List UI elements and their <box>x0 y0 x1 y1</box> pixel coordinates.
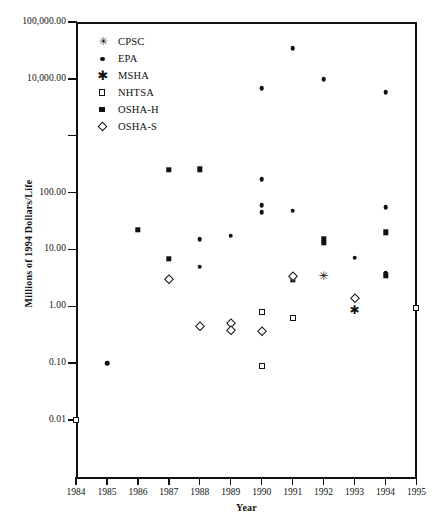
y-axis-tick-label: 1.00 <box>49 301 66 311</box>
data-point-cpsc: ✳ <box>318 271 329 282</box>
marker-glyph <box>97 122 107 132</box>
data-point-nhtsa <box>73 417 79 423</box>
marker-glyph <box>100 57 105 62</box>
legend-item-msha[interactable]: ✱MSHA <box>96 67 216 84</box>
data-point-nhtsa <box>259 363 265 369</box>
legend-item-osha-h[interactable]: OSHA-H <box>96 101 216 118</box>
y-axis-tick-label: 0.01 <box>49 415 66 425</box>
data-point-epa <box>383 90 388 95</box>
x-axis-tick <box>137 477 138 485</box>
open-diamond-icon <box>96 118 112 135</box>
y-axis-title: Millions of 1994 Dollars/Life <box>23 154 34 334</box>
legend-item-nhtsa[interactable]: NHTSA <box>96 84 216 101</box>
data-point-osha-s <box>195 321 204 330</box>
data-point-epa <box>198 237 203 242</box>
data-point-osha-h <box>166 167 171 172</box>
x-axis-tick <box>323 477 324 485</box>
y-axis-tick-label: 10,000.00 <box>27 74 66 84</box>
legend-item-label: MSHA <box>118 67 149 84</box>
x-axis-tick-label: 1995 <box>396 487 436 497</box>
data-point-nhtsa <box>259 309 265 315</box>
data-point-nhtsa <box>290 315 296 321</box>
x-axis-tick <box>230 477 231 485</box>
chart-canvas: 100,000.0010,000.00100.0010.001.000.100.… <box>0 0 441 518</box>
y-axis-tick-label: 100,000.00 <box>22 17 66 27</box>
x-axis-tick <box>416 477 417 485</box>
data-point-epa <box>259 210 264 215</box>
data-point-osha-h <box>383 273 388 278</box>
x-axis-title: Year <box>76 502 417 513</box>
data-point-osha-s <box>257 326 266 335</box>
marker-glyph <box>99 107 105 113</box>
data-point-osha-h <box>383 230 388 235</box>
legend-item-epa[interactable]: EPA <box>96 50 216 67</box>
data-point-osha-h <box>197 167 202 172</box>
plot-frame-top <box>76 22 417 24</box>
y-axis-tick-label: 100.00 <box>39 188 66 198</box>
data-point-epa <box>259 177 264 182</box>
x-axis-tick <box>292 477 293 485</box>
data-point-epa <box>383 205 388 210</box>
marker-glyph: ✱ <box>96 67 110 84</box>
data-point-epa <box>290 46 295 51</box>
data-point-epa <box>259 86 264 91</box>
data-point-osha-s <box>164 274 173 283</box>
x-axis-tick <box>261 477 262 485</box>
data-point-osha-s <box>350 293 359 302</box>
legend-item-cpsc[interactable]: ✳CPSC <box>96 33 216 50</box>
filled-circle-icon <box>96 50 112 67</box>
marker-glyph: ✳ <box>318 271 329 282</box>
x-axis-tick <box>106 477 107 485</box>
open-square-icon <box>96 84 112 101</box>
asterisk-eight-icon: ✱ <box>96 67 112 84</box>
data-point-epa <box>259 203 264 208</box>
chart-legend: ✳CPSCEPA✱MSHANHTSAOSHA-HOSHA-S <box>96 33 216 135</box>
legend-item-label: NHTSA <box>118 84 154 101</box>
data-point-epa <box>321 77 326 82</box>
data-point-epa <box>198 264 203 269</box>
data-point-epa <box>290 208 295 213</box>
legend-item-label: EPA <box>118 50 137 67</box>
y-axis-tick-label: 0.10 <box>49 358 66 368</box>
x-axis-tick <box>168 477 169 485</box>
data-point-msha: ✱ <box>349 305 360 316</box>
y-axis-tick-label: 10.00 <box>44 244 66 254</box>
x-axis-tick <box>75 477 76 485</box>
data-point-epa <box>105 361 110 366</box>
data-point-epa <box>228 233 233 238</box>
legend-item-osha-s[interactable]: OSHA-S <box>96 118 216 135</box>
filled-square-icon <box>96 101 112 118</box>
asterisk-six-icon: ✳ <box>96 33 112 50</box>
x-axis-line <box>76 477 417 479</box>
legend-item-label: OSHA-H <box>118 101 159 118</box>
legend-item-label: OSHA-S <box>118 118 157 135</box>
x-axis-tick <box>199 477 200 485</box>
marker-glyph <box>99 89 105 95</box>
marker-glyph: ✳ <box>96 33 110 50</box>
data-point-osha-s <box>226 326 235 335</box>
legend-item-label: CPSC <box>118 33 145 50</box>
y-axis-line <box>76 22 78 479</box>
x-axis-tick <box>385 477 386 485</box>
data-point-osha-h <box>166 256 171 261</box>
data-point-osha-h <box>321 240 326 245</box>
data-point-epa <box>352 255 357 260</box>
marker-glyph: ✱ <box>349 305 360 316</box>
data-point-nhtsa <box>413 305 419 311</box>
x-axis-tick <box>354 477 355 485</box>
plot-frame-right <box>415 22 417 479</box>
data-point-osha-h <box>135 227 140 232</box>
